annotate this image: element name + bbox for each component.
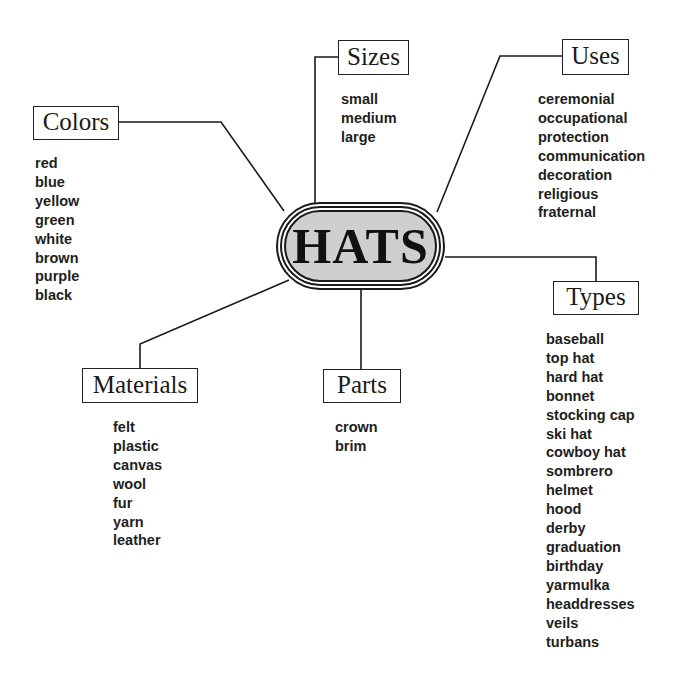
node-types: Types <box>553 281 639 315</box>
list-item: hood <box>546 500 635 519</box>
node-uses: Uses <box>562 39 629 75</box>
list-item: red <box>35 154 79 173</box>
list-uses: ceremonial occupational protection commu… <box>538 90 645 222</box>
center-node-hats: HATS <box>276 202 445 290</box>
list-item: birthday <box>546 557 635 576</box>
list-item: religious <box>538 185 645 204</box>
list-item: blue <box>35 173 79 192</box>
list-item: small <box>341 90 397 109</box>
list-item: hard hat <box>546 368 635 387</box>
list-item: wool <box>113 475 162 494</box>
list-materials: felt plastic canvas wool fur yarn leathe… <box>113 418 162 550</box>
list-item: leather <box>113 531 162 550</box>
list-item: white <box>35 230 79 249</box>
list-item: headdresses <box>546 595 635 614</box>
list-item: plastic <box>113 437 162 456</box>
list-parts: crown brim <box>335 418 378 456</box>
list-item: medium <box>341 109 397 128</box>
list-item: helmet <box>546 481 635 500</box>
list-item: crown <box>335 418 378 437</box>
list-item: ceremonial <box>538 90 645 109</box>
list-types: baseball top hat hard hat bonnet stockin… <box>546 330 635 651</box>
connector-sizes <box>315 57 338 203</box>
list-sizes: small medium large <box>341 90 397 147</box>
list-colors: red blue yellow green white brown purple… <box>35 154 79 305</box>
mind-map-canvas: HATS Colors red blue yellow green white … <box>0 0 681 680</box>
list-item: bonnet <box>546 387 635 406</box>
connector-colors <box>118 122 284 211</box>
list-item: stocking cap <box>546 406 635 425</box>
list-item: baseball <box>546 330 635 349</box>
list-item: large <box>341 128 397 147</box>
list-item: fur <box>113 494 162 513</box>
list-item: ski hat <box>546 425 635 444</box>
list-item: graduation <box>546 538 635 557</box>
list-item: protection <box>538 128 645 147</box>
list-item: veils <box>546 614 635 633</box>
list-item: yarn <box>113 513 162 532</box>
list-item: turbans <box>546 633 635 652</box>
node-materials: Materials <box>82 368 198 403</box>
list-item: brim <box>335 437 378 456</box>
list-item: purple <box>35 267 79 286</box>
list-item: yellow <box>35 192 79 211</box>
list-item: occupational <box>538 109 645 128</box>
list-item: brown <box>35 249 79 268</box>
center-label: HATS <box>276 202 445 290</box>
node-sizes: Sizes <box>338 40 409 75</box>
node-colors: Colors <box>33 106 119 140</box>
node-parts: Parts <box>323 369 401 403</box>
list-item: canvas <box>113 456 162 475</box>
list-item: communication <box>538 147 645 166</box>
connector-types <box>445 257 596 281</box>
list-item: yarmulka <box>546 576 635 595</box>
list-item: derby <box>546 519 635 538</box>
connector-materials <box>140 280 289 368</box>
list-item: felt <box>113 418 162 437</box>
list-item: green <box>35 211 79 230</box>
list-item: black <box>35 286 79 305</box>
list-item: cowboy hat <box>546 443 635 462</box>
list-item: top hat <box>546 349 635 368</box>
list-item: sombrero <box>546 462 635 481</box>
list-item: fraternal <box>538 203 645 222</box>
list-item: decoration <box>538 166 645 185</box>
